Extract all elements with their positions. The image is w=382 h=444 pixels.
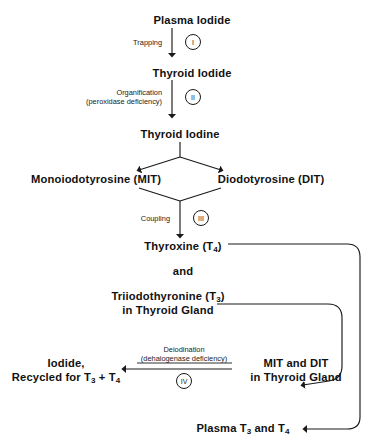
- node-plasma-t3-and-t4: Plasma T3 and T4: [196, 422, 289, 438]
- step-numeral-iii: III: [193, 210, 209, 226]
- converge-from-mit: [139, 188, 180, 201]
- step-label-coupling: Coupling: [118, 214, 170, 223]
- node-mit-and-dit: MIT and DIT: [263, 357, 328, 370]
- plasma-sub-t4: 4: [285, 427, 289, 436]
- recycled-sub-t4: 4: [116, 376, 120, 385]
- thyroid-synthesis-diagram: Plasma Iodide Thyroid Iodide Thyroid Iod…: [0, 0, 382, 444]
- triiodothyronine-paren: ): [221, 290, 225, 302]
- step-label-trapping: Trapping: [110, 38, 162, 47]
- node-monoiodotyrosine-mit: Monoiodotyrosine (MIT): [31, 173, 161, 186]
- recycled-label: Recycled for T: [12, 371, 91, 383]
- recycled-plus: + T: [96, 371, 116, 383]
- step-label-organification-line2: (peroxidase deficiency): [56, 97, 162, 106]
- converge-from-dit: [180, 188, 221, 201]
- node-diodotyrosine-dit: Diodotyrosine (DIT): [218, 173, 325, 186]
- thyroxine-paren: ): [218, 240, 222, 252]
- node-and-connector: and: [173, 265, 193, 278]
- node-plasma-iodide: Plasma Iodide: [153, 14, 230, 27]
- node-thyroxine-t4: Thyroxine (T4): [144, 240, 221, 256]
- node-thyroid-iodide: Thyroid Iodide: [152, 67, 231, 80]
- node-t3-in-thyroid-gland: in Thyroid Gland: [122, 304, 213, 317]
- node-iodide-recycled-line2: Recycled for T3 + T4: [12, 371, 120, 387]
- step-label-deiodination-line2: (dehalogenase deficiency): [141, 354, 227, 363]
- thyroxine-label: Thyroxine (T: [144, 240, 213, 252]
- step-label-organification-line1: Organification: [56, 88, 162, 97]
- node-iodide-recycled-line1: Iodide,: [47, 357, 84, 370]
- step-numeral-i: I: [185, 34, 201, 50]
- node-mit-dit-in-thyroid-gland: in Thyroid Gland: [250, 371, 341, 384]
- node-thyroid-iodine: Thyroid Iodine: [140, 128, 219, 141]
- route-thyroxine-to-right-outer: [228, 244, 360, 429]
- plasma-label: Plasma T: [196, 422, 246, 434]
- arrow-branch-to-dit: [180, 157, 221, 170]
- step-numeral-ii: II: [185, 89, 201, 105]
- step-numeral-iv: IV: [176, 373, 192, 389]
- arrow-branch-to-mit: [139, 157, 180, 170]
- triiodothyronine-label: Triiodothyronine (T: [111, 290, 216, 302]
- step-label-deiodination-line1: Deiodination: [163, 345, 204, 354]
- plasma-and: and T: [251, 422, 285, 434]
